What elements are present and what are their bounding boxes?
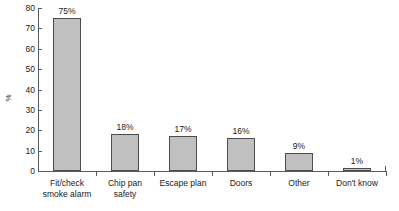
bar [53, 18, 81, 171]
x-axis-category-label: Other [267, 178, 331, 189]
x-axis-category-line: Escape plan [151, 178, 215, 189]
x-tick-mark [154, 171, 155, 176]
x-axis-category-label: Chip pansafety [93, 178, 157, 200]
y-tick-mark [38, 49, 42, 50]
bar-chart: % 80706050403020100 75%Fit/checksmoke al… [0, 0, 399, 211]
y-tick-mark [38, 90, 42, 91]
x-tick-mark [270, 171, 271, 176]
x-axis-category-line: Don't know [325, 178, 389, 189]
y-tick-mark [38, 130, 42, 131]
bar [227, 138, 255, 171]
bar-value-label: 17% [158, 124, 208, 134]
bar [111, 134, 139, 171]
bar [343, 168, 371, 171]
x-axis-category-label: Don't know [325, 178, 389, 189]
x-tick-mark [328, 171, 329, 176]
bar-value-label: 16% [216, 126, 266, 136]
x-axis-category-label: Doors [209, 178, 273, 189]
y-tick-mark [38, 69, 42, 70]
y-tick-value: 40 [16, 85, 35, 94]
x-tick-mark [212, 171, 213, 176]
x-axis-category-line: smoke alarm [35, 189, 99, 200]
y-tick-value: 60 [16, 44, 35, 53]
x-axis-category-label: Fit/checksmoke alarm [35, 178, 99, 200]
bar [169, 136, 197, 171]
x-tick-mark [96, 171, 97, 176]
bar-value-label: 75% [42, 6, 92, 16]
x-axis-category-line: Fit/check [35, 178, 99, 189]
x-tick-mark [386, 171, 387, 176]
x-axis-category-line: Chip pan [93, 178, 157, 189]
y-tick-mark [38, 171, 42, 172]
y-tick-mark [38, 151, 42, 152]
y-tick-mark [38, 28, 42, 29]
y-tick-value: 20 [16, 126, 35, 135]
y-tick-value: 50 [16, 65, 35, 74]
x-axis-category-line: safety [93, 189, 157, 200]
y-tick-value: 70 [16, 24, 35, 33]
y-tick-value: 30 [16, 105, 35, 114]
y-tick-mark [38, 110, 42, 111]
x-axis-category-line: Doors [209, 178, 273, 189]
x-axis-category-label: Escape plan [151, 178, 215, 189]
bar-value-label: 18% [100, 122, 150, 132]
y-tick-value: 10 [16, 146, 35, 155]
x-axis-category-line: Other [267, 178, 331, 189]
y-tick-value: 0 [16, 167, 35, 176]
y-tick-value: 80 [16, 4, 35, 13]
bar-value-label: 1% [332, 156, 382, 166]
bar [285, 153, 313, 171]
bar-value-label: 9% [274, 141, 324, 151]
